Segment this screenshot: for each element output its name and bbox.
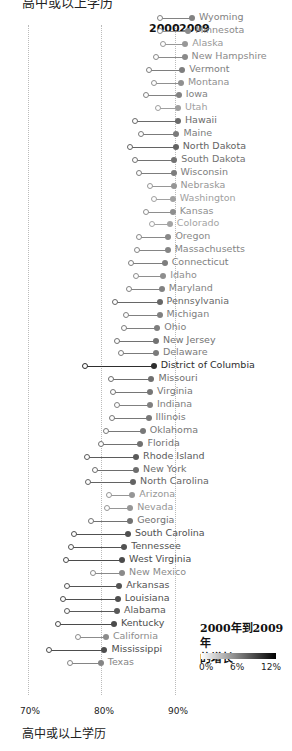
range-line <box>150 186 174 187</box>
dot-2000 <box>132 118 138 124</box>
dot-2000 <box>133 273 139 279</box>
range-line <box>154 83 180 84</box>
range-line <box>135 160 174 161</box>
table-row: Maryland <box>0 283 292 295</box>
range-line <box>129 289 161 290</box>
state-label: New Jersey <box>163 334 216 345</box>
range-line <box>130 147 176 148</box>
axis-tick-70: 70% <box>20 706 40 716</box>
dot-2000 <box>88 518 94 524</box>
range-line <box>146 95 178 96</box>
table-row: Delaware <box>0 347 292 359</box>
dot-2000 <box>90 570 96 576</box>
dot-2000 <box>118 350 124 356</box>
dot-2000 <box>68 544 74 550</box>
table-row: Pennsylvania <box>0 296 292 308</box>
dot-2000 <box>138 131 144 137</box>
table-row: Oregon <box>0 231 292 243</box>
range-line <box>101 444 141 445</box>
range-line <box>106 431 143 432</box>
state-label: Wisconsin <box>181 166 228 177</box>
range-line <box>95 470 136 471</box>
table-row: Virginia <box>0 386 292 398</box>
table-row: Michigan <box>0 309 292 321</box>
dot-2000 <box>153 54 159 60</box>
legend-tick-6: 6% <box>230 662 244 672</box>
dot-2009 <box>101 647 107 653</box>
table-row: New Hampshire <box>0 51 292 63</box>
range-line <box>58 624 114 625</box>
dot-2009 <box>125 531 131 537</box>
dot-2000 <box>92 467 98 473</box>
table-row: Alabama <box>0 605 292 617</box>
range-line <box>135 121 178 122</box>
dot-2009 <box>176 92 182 98</box>
range-line <box>160 31 189 32</box>
table-row: New York <box>0 464 292 476</box>
dot-2000 <box>98 441 104 447</box>
dot-2000 <box>71 531 77 537</box>
dot-2009 <box>151 363 157 369</box>
table-row: District of Columbia <box>0 360 292 372</box>
dot-2009 <box>189 15 195 21</box>
state-label: Arizona <box>139 488 175 499</box>
dot-2000 <box>132 157 138 163</box>
state-label: Washington <box>180 192 236 203</box>
legend-tick-12: 12% <box>261 662 281 672</box>
range-line <box>146 212 173 213</box>
state-label: Louisiana <box>125 592 170 603</box>
state-label: Maine <box>183 127 212 138</box>
dot-2009 <box>119 570 125 576</box>
state-label: Vermont <box>189 63 229 74</box>
table-row: West Virginia <box>0 554 292 566</box>
table-row: Vermont <box>0 64 292 76</box>
page-title-cut: 高中或以上学历 <box>22 0 113 11</box>
state-label: Arkansas <box>126 579 169 590</box>
dot-2009 <box>157 299 163 305</box>
dot-2000 <box>55 621 61 627</box>
range-line <box>66 560 122 561</box>
range-line <box>87 457 136 458</box>
dot-2009 <box>175 118 181 124</box>
state-label: Maryland <box>169 282 213 293</box>
table-row: Massachusetts <box>0 244 292 256</box>
dot-2009 <box>121 544 127 550</box>
table-row: Washington <box>0 193 292 205</box>
dot-2000 <box>85 479 91 485</box>
range-line <box>137 250 168 251</box>
range-line <box>141 134 176 135</box>
table-row: Oklahoma <box>0 425 292 437</box>
range-line <box>149 70 183 71</box>
state-label: Indiana <box>157 398 192 409</box>
table-row: Kansas <box>0 206 292 218</box>
dot-2000 <box>143 92 149 98</box>
table-row: Missouri <box>0 373 292 385</box>
dot-2000 <box>75 634 81 640</box>
dot-2000 <box>110 389 116 395</box>
state-label: South Carolina <box>135 527 205 538</box>
table-row: North Dakota <box>0 141 292 153</box>
table-row: Idaho <box>0 270 292 282</box>
state-label: Oklahoma <box>150 424 198 435</box>
table-row: Minnesota <box>0 25 292 37</box>
table-row: Connecticut <box>0 257 292 269</box>
state-label: Iowa <box>186 88 208 99</box>
dot-2009 <box>127 518 133 524</box>
state-label: Florida <box>147 437 179 448</box>
dot-2000 <box>64 583 70 589</box>
table-row: Montana <box>0 77 292 89</box>
range-line <box>112 418 149 419</box>
dot-2009 <box>175 105 181 111</box>
dot-2000 <box>151 80 157 86</box>
range-line <box>49 650 104 651</box>
table-row: Tennessee <box>0 541 292 553</box>
state-label: Nebraska <box>181 179 226 190</box>
axis-tick-90: 90% <box>168 706 188 716</box>
dot-2009 <box>185 28 191 34</box>
range-line <box>88 482 134 483</box>
table-row: Nebraska <box>0 180 292 192</box>
legend-title: 2000年到2009年 的增长 <box>200 621 292 666</box>
state-label: West Virginia <box>129 553 191 564</box>
dot-2000 <box>146 67 152 73</box>
dot-2009 <box>114 608 120 614</box>
